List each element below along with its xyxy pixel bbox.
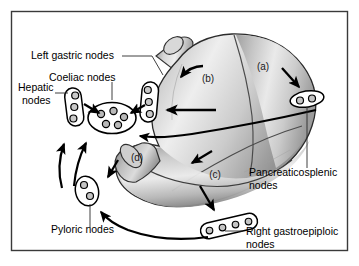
pancreaticosplenic-node-1 <box>297 97 304 104</box>
pyloric-node-1 <box>81 182 88 189</box>
coeliac-node-3 <box>120 113 127 120</box>
right-gastroepiploic-node-1 <box>206 227 213 234</box>
left-gastric-nodes-group <box>139 81 159 122</box>
label-hepatic-nodes-line1: Hepatic <box>18 81 54 93</box>
label-hepatic-nodes-line2: nodes <box>22 94 51 106</box>
label-pancreaticosplenic-nodes-line1: Pancreaticosplenic <box>249 166 337 178</box>
region-label-a: (a) <box>257 61 269 72</box>
coeliac-node-5 <box>114 121 121 128</box>
region-label-b: (b) <box>202 73 214 84</box>
label-pancreaticosplenic-nodes-line2: nodes <box>249 179 278 191</box>
label-coeliac-nodes: Coeliac nodes <box>49 71 116 83</box>
right-gastroepiploic-node-4 <box>245 218 252 225</box>
hepatic-node-3 <box>70 115 77 122</box>
label-pyloric-nodes: Pyloric nodes <box>51 223 114 235</box>
left-gastric-node-2 <box>145 99 152 106</box>
label-right-gastroepiploic-nodes-line2: nodes <box>246 238 275 250</box>
label-left-gastric-nodes: Left gastric nodes <box>31 49 114 61</box>
coeliac-node-2 <box>110 107 117 114</box>
diagram-canvas: Left gastric nodes Coeliac nodes Hepatic… <box>0 0 359 266</box>
label-right-gastroepiploic-nodes-line1: Right gastroepiploic <box>246 225 338 237</box>
pancreaticosplenic-node-2 <box>309 95 316 102</box>
left-gastric-node-1 <box>144 87 151 94</box>
region-label-c: (c) <box>209 169 221 180</box>
coeliac-node-4 <box>102 120 109 127</box>
hepatic-node-2 <box>71 104 78 111</box>
hepatic-node-1 <box>72 92 79 99</box>
left-gastric-node-3 <box>146 111 153 118</box>
right-gastroepiploic-node-3 <box>232 221 239 228</box>
gastric-lymph-node-diagram: Left gastric nodes Coeliac nodes Hepatic… <box>0 0 359 266</box>
right-gastroepiploic-node-2 <box>219 224 226 231</box>
coeliac-nodes-group <box>88 103 136 134</box>
pyloric-node-2 <box>87 193 94 200</box>
region-label-d: (d) <box>131 152 143 163</box>
